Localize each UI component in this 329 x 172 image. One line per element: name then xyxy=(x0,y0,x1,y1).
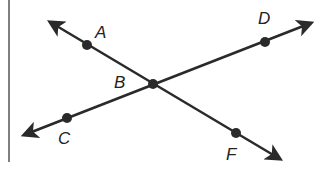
label-C: C xyxy=(58,130,70,147)
point-C xyxy=(62,113,72,123)
intersecting-lines-figure xyxy=(0,0,329,172)
label-F: F xyxy=(226,146,236,163)
diagram-canvas: A B C D F xyxy=(0,0,329,172)
point-F xyxy=(231,128,241,138)
point-B xyxy=(148,79,158,89)
label-A: A xyxy=(95,24,106,41)
point-D xyxy=(260,37,270,47)
label-B: B xyxy=(114,74,125,91)
point-A xyxy=(82,40,92,50)
label-D: D xyxy=(258,10,270,27)
